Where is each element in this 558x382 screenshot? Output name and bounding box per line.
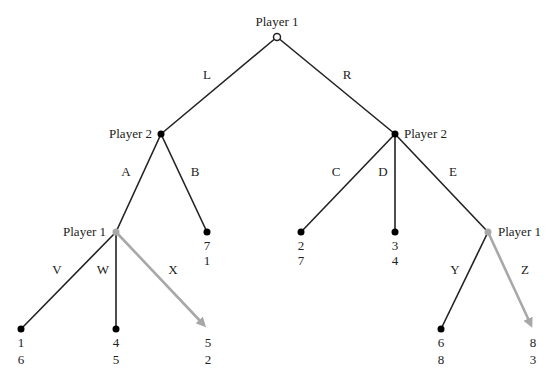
edge-X	[116, 232, 204, 325]
action-label-Z: Z	[521, 262, 529, 277]
payoff-B-p2: 1	[204, 253, 211, 268]
payoff-Z-p2: 3	[530, 352, 537, 367]
player2-right-node	[392, 131, 399, 138]
action-label-W: W	[97, 262, 110, 277]
edge-V	[21, 232, 116, 329]
payoff-W-p1: 4	[113, 335, 120, 350]
edge-L	[161, 37, 277, 134]
terminal-node-W	[113, 326, 120, 333]
player1-right-node	[485, 229, 492, 236]
payoff-Y-p1: 6	[438, 335, 445, 350]
payoff-D-p1: 3	[392, 238, 399, 253]
payoff-C-p2: 7	[298, 253, 305, 268]
edge-E	[395, 134, 488, 232]
payoff-V-p1: 1	[18, 335, 25, 350]
terminal-node-D	[392, 229, 399, 236]
edge-Y	[441, 232, 488, 329]
payoff-B-p1: 7	[204, 238, 211, 253]
game-tree: Player 1 Player 2 Player 2 Player 1 Play…	[0, 0, 558, 382]
terminal-node-V	[18, 326, 25, 333]
payoff-D-p2: 4	[392, 253, 399, 268]
player2-left-label: Player 2	[109, 126, 152, 141]
terminal-node-B	[204, 229, 211, 236]
action-label-Y: Y	[450, 262, 460, 277]
action-label-E: E	[449, 164, 457, 179]
terminal-node-C	[298, 229, 305, 236]
player1-left-node	[113, 229, 120, 236]
action-label-R: R	[343, 67, 352, 82]
player1-right-label: Player 1	[498, 224, 541, 239]
action-label-B: B	[191, 164, 200, 179]
edge-B	[161, 134, 207, 232]
action-label-L: L	[203, 67, 211, 82]
edge-C	[301, 134, 395, 232]
edge-R	[277, 37, 395, 134]
payoff-W-p2: 5	[113, 352, 120, 367]
root-player-label: Player 1	[256, 14, 299, 29]
edge-A	[116, 134, 161, 232]
root-node	[274, 34, 281, 41]
payoff-C-p1: 2	[298, 238, 305, 253]
action-label-A: A	[121, 164, 131, 179]
payoff-X-p2: 2	[205, 352, 212, 367]
payoff-V-p2: 6	[18, 352, 25, 367]
player1-left-label: Player 1	[63, 224, 106, 239]
action-label-V: V	[52, 262, 62, 277]
action-label-C: C	[332, 164, 341, 179]
payoff-X-p1: 5	[205, 335, 212, 350]
payoff-Y-p2: 8	[438, 352, 445, 367]
player2-left-node	[158, 131, 165, 138]
terminal-node-Y	[438, 326, 445, 333]
action-label-X: X	[168, 262, 178, 277]
action-label-D: D	[378, 164, 387, 179]
player2-right-label: Player 2	[404, 126, 447, 141]
payoff-Z-p1: 8	[530, 335, 537, 350]
edge-Z	[488, 232, 531, 325]
